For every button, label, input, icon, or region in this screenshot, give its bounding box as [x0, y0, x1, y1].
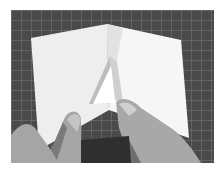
- paper-folding-photo: [11, 10, 214, 163]
